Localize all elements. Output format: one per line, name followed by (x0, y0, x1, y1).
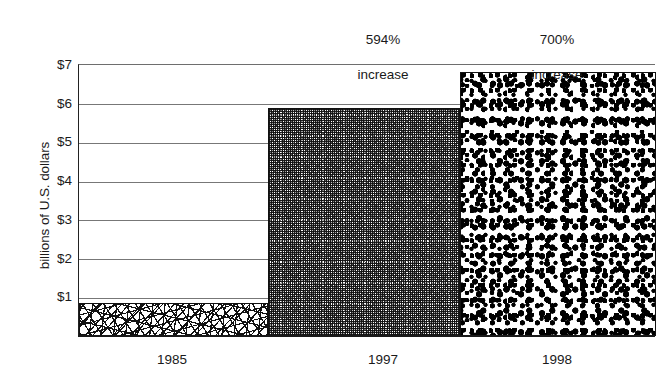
y-axis-tick-labels: $7 $6 $5 $4 $3 $2 $1 (28, 0, 72, 385)
x-axis-baseline (78, 335, 655, 337)
x-tick-label-1997: 1997 (303, 352, 463, 367)
y-tick-label-2: $2 (32, 252, 72, 266)
plot-area (78, 64, 655, 336)
annotation-1997-word: increase (303, 66, 463, 84)
annotation-1998: 700% increase (477, 13, 637, 101)
x-tick-label-1985: 1985 (92, 352, 252, 367)
y-tick-label-5: $5 (32, 135, 72, 149)
annotation-1998-word: increase (477, 66, 637, 84)
y-tick-label-3: $3 (32, 213, 72, 227)
x-tick-label-1998: 1998 (477, 352, 637, 367)
y-tick-label-6: $6 (32, 97, 72, 111)
annotation-1998-percent: 700% (477, 31, 637, 49)
y-tick-label-1: $1 (32, 290, 72, 304)
annotation-1997-percent: 594% (303, 31, 463, 49)
bar-1997 (268, 108, 460, 336)
bar-1985 (79, 303, 268, 336)
bar-chart: billions of U.S. dollars $7 $6 $5 $4 $3 … (0, 0, 670, 385)
bar-1998 (460, 72, 656, 336)
annotation-1997: 594% increase (303, 13, 463, 101)
y-tick-label-7: $7 (32, 58, 72, 72)
y-tick-label-4: $4 (32, 174, 72, 188)
